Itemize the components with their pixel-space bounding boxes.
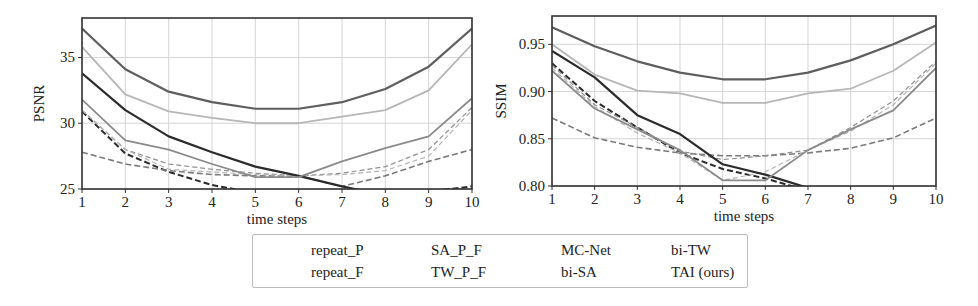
series-line-sa-p-f xyxy=(82,107,472,175)
legend-label: MC-Net xyxy=(561,242,611,259)
series-group xyxy=(82,29,472,205)
svg-text:0.85: 0.85 xyxy=(519,131,545,147)
series-line-bi-sa xyxy=(552,68,936,180)
legend-label: TW_P_F xyxy=(431,264,486,281)
svg-text:7: 7 xyxy=(338,194,346,210)
series-line-tai-ours- xyxy=(552,25,936,79)
svg-text:3: 3 xyxy=(634,191,642,207)
svg-text:10: 10 xyxy=(929,191,944,207)
legend-label: TAI (ours) xyxy=(671,264,734,281)
axes-frame xyxy=(552,16,936,186)
svg-text:9: 9 xyxy=(425,194,433,210)
svg-text:30: 30 xyxy=(60,115,75,131)
svg-text:7: 7 xyxy=(804,191,812,207)
tick-labels: 123456789100.800.850.900.95 xyxy=(519,36,944,207)
svg-text:10: 10 xyxy=(465,194,480,210)
svg-text:0.95: 0.95 xyxy=(519,36,545,52)
legend: repeat_P repeat_F SA_P_F TW_P_F MC-Net b… xyxy=(252,234,748,288)
svg-text:1: 1 xyxy=(78,194,86,210)
series-line-mc-net xyxy=(82,73,472,205)
legend-item-tai: TAI (ours) xyxy=(625,262,734,282)
legend-item-sa-p-f: SA_P_F xyxy=(385,240,482,260)
svg-text:5: 5 xyxy=(719,191,727,207)
svg-text:8: 8 xyxy=(847,191,855,207)
psnr-plot: 12345678910253035time stepsPSNR xyxy=(31,18,480,227)
series-line-repeat-f xyxy=(552,118,936,156)
legend-label: SA_P_F xyxy=(431,242,482,259)
grid xyxy=(552,16,936,186)
legend-item-tw-p-f: TW_P_F xyxy=(385,262,486,282)
svg-text:2: 2 xyxy=(122,194,130,210)
svg-text:1: 1 xyxy=(548,191,556,207)
legend-item-repeat-f: repeat_F xyxy=(265,262,363,282)
legend-label: bi-TW xyxy=(671,242,711,259)
legend-label: repeat_F xyxy=(311,264,363,281)
svg-text:25: 25 xyxy=(60,181,75,197)
y-axis-label: PSNR xyxy=(31,85,47,123)
series-line-mc-net xyxy=(552,51,936,197)
svg-text:4: 4 xyxy=(676,191,684,207)
svg-text:5: 5 xyxy=(252,194,260,210)
legend-label: repeat_P xyxy=(311,242,363,259)
ssim-plot: 123456789100.800.850.900.95time stepsSSI… xyxy=(493,16,944,224)
svg-text:6: 6 xyxy=(762,191,770,207)
grid xyxy=(82,18,472,189)
y-axis-label: SSIM xyxy=(493,83,509,118)
svg-text:0.80: 0.80 xyxy=(519,178,545,194)
series-line-repeat-p xyxy=(82,111,472,204)
x-axis-label: time steps xyxy=(714,208,775,224)
legend-item-mc-net: MC-Net xyxy=(515,240,611,260)
svg-text:3: 3 xyxy=(165,194,173,210)
legend-label: bi-SA xyxy=(561,264,597,281)
svg-text:8: 8 xyxy=(382,194,390,210)
svg-text:0.90: 0.90 xyxy=(519,84,545,100)
svg-text:4: 4 xyxy=(208,194,216,210)
series-line-bi-tw xyxy=(82,44,472,123)
legend-item-repeat-p: repeat_P xyxy=(265,240,363,260)
svg-text:2: 2 xyxy=(591,191,599,207)
series-line-bi-sa xyxy=(82,98,472,177)
series-group xyxy=(552,25,936,197)
svg-text:35: 35 xyxy=(60,49,75,65)
legend-item-bi-sa: bi-SA xyxy=(515,262,597,282)
svg-text:6: 6 xyxy=(295,194,303,210)
axes-frame xyxy=(82,18,472,189)
legend-item-bi-tw: bi-TW xyxy=(625,240,711,260)
svg-text:9: 9 xyxy=(890,191,898,207)
x-axis-label: time steps xyxy=(247,211,308,227)
